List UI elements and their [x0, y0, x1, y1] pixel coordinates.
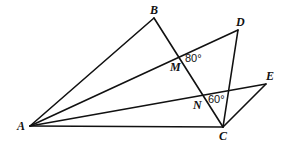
- segment-AC: [30, 126, 223, 127]
- label-E: E: [265, 69, 274, 83]
- label-B: B: [149, 3, 158, 17]
- label-D: D: [235, 15, 245, 29]
- segment-AB: [30, 18, 154, 126]
- segment-AD: [30, 30, 238, 126]
- label-N: N: [192, 98, 203, 112]
- segment-DC: [223, 30, 238, 127]
- angle-label-60: 60°: [208, 93, 225, 105]
- label-A: A: [16, 119, 25, 133]
- label-M: M: [169, 60, 181, 74]
- label-C: C: [219, 129, 228, 143]
- angle-label-80: 80°: [185, 52, 202, 64]
- segment-BC: [154, 18, 223, 127]
- geometry-diagram: A B D E C M N 80° 60°: [0, 0, 286, 144]
